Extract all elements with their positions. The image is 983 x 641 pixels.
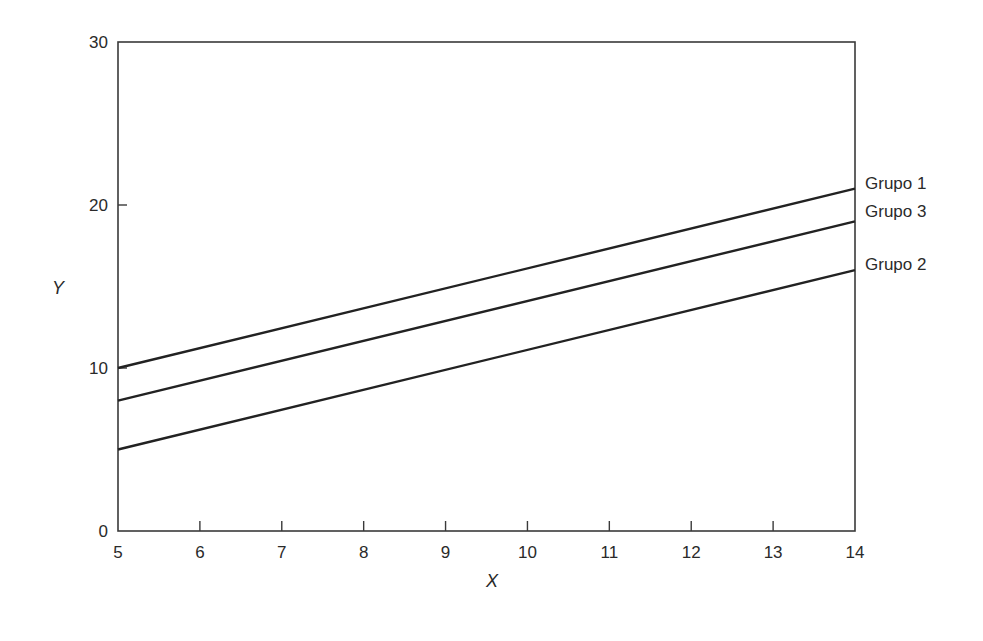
series-line: [118, 221, 855, 400]
series-line: [118, 270, 855, 449]
x-tick-label: 5: [113, 543, 122, 562]
x-tick-label: 6: [195, 543, 204, 562]
y-tick-label: 20: [89, 196, 108, 215]
x-tick-label: 13: [764, 543, 783, 562]
y-axis-label: Y: [52, 278, 66, 298]
y-tick-label: 0: [99, 522, 108, 541]
x-tick-label: 14: [846, 543, 865, 562]
plot-frame: [118, 42, 855, 531]
series-line: [118, 189, 855, 368]
series-label: Grupo 2: [865, 255, 926, 274]
series-label: Grupo 3: [865, 202, 926, 221]
y-tick-label: 10: [89, 359, 108, 378]
series-label: Grupo 1: [865, 174, 926, 193]
x-tick-label: 8: [359, 543, 368, 562]
x-tick-label: 9: [441, 543, 450, 562]
y-tick-label: 30: [89, 33, 108, 52]
series-lines: [118, 189, 855, 450]
x-tick-label: 7: [277, 543, 286, 562]
x-tick-label: 10: [518, 543, 537, 562]
series-labels: Grupo 1Grupo 3Grupo 2: [865, 174, 926, 275]
x-axis-ticks: 567891011121314: [113, 521, 864, 562]
x-tick-label: 11: [601, 543, 619, 562]
chart: 567891011121314 0102030 Grupo 1Grupo 3Gr…: [0, 0, 983, 641]
x-axis-label: X: [485, 571, 499, 591]
y-axis-ticks: 0102030: [89, 33, 127, 541]
x-tick-label: 12: [682, 543, 701, 562]
